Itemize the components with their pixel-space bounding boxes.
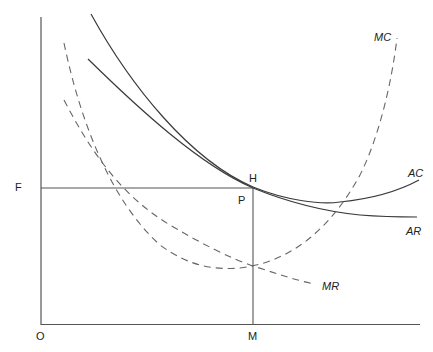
- label-AC: AC: [407, 167, 423, 179]
- label-origin: O: [36, 330, 45, 342]
- mc-curve: [64, 38, 397, 269]
- label-M: M: [248, 330, 257, 342]
- label-H: H: [249, 172, 257, 184]
- label-MC: MC: [374, 31, 391, 43]
- cost-revenue-diagram: O F M H P MC AC AR MR: [0, 0, 433, 352]
- label-F: F: [15, 181, 22, 193]
- label-AR: AR: [405, 225, 421, 237]
- mr-curve: [64, 100, 314, 284]
- label-P: P: [238, 194, 245, 206]
- label-MR: MR: [322, 280, 339, 292]
